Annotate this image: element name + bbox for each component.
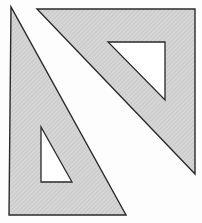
set-squares-diagram: 30-60-90 set square 45-45-90 set square [0,0,202,223]
figure-canvas: Two drafting set squares with triangular… [0,0,202,223]
